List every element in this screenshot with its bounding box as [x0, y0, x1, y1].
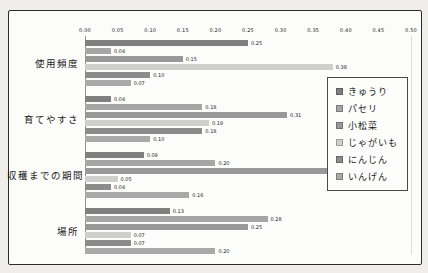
axis-tick-label: 0.00: [79, 27, 91, 33]
legend-swatch: [336, 139, 343, 146]
bar-いんげん: [85, 80, 131, 86]
bar-value-label: 0.10: [153, 72, 164, 78]
bar-value-label: 0.05: [121, 176, 132, 182]
bar-value-label: 0.20: [218, 248, 229, 254]
axis-tick-label: 0.40: [340, 27, 352, 33]
bar-value-label: 0.09: [147, 152, 158, 158]
legend-item: きゅうり: [336, 83, 398, 100]
category-group: 場所0.130.280.250.070.070.20: [85, 207, 411, 255]
bar-value-label: 0.20: [218, 160, 229, 166]
bar-きゅうり: [85, 40, 248, 46]
legend-label: にんじん: [348, 153, 388, 166]
bar-パセリ: [85, 216, 268, 222]
legend: きゅうりパセリ小松菜じゃがいもにんじんいんげん: [327, 77, 408, 191]
category-label: 場所: [7, 224, 79, 238]
bar-value-label: 0.04: [114, 48, 125, 54]
category-label: 育てやすさ: [7, 112, 79, 126]
legend-item: いんげん: [336, 168, 398, 185]
bar-row: 0.25: [85, 39, 411, 47]
bar-row: 0.13: [85, 207, 411, 215]
chart-frame: 0.000.050.100.150.200.250.300.350.400.45…: [8, 10, 422, 265]
bar-小松菜: [85, 56, 183, 62]
bar-じゃがいも: [85, 120, 209, 126]
bar-value-label: 0.15: [186, 56, 197, 62]
plot-area: 0.000.050.100.150.200.250.300.350.400.45…: [85, 11, 411, 264]
axis-tick-label: 0.10: [144, 27, 156, 33]
bar-value-label: 0.07: [134, 240, 145, 246]
bar-value-label: 0.31: [290, 112, 301, 118]
bar-value-label: 0.25: [251, 224, 262, 230]
legend-label: きゅうり: [348, 85, 388, 98]
axis-tick-label: 0.50: [405, 27, 417, 33]
legend-label: パセリ: [348, 102, 378, 115]
bar-パセリ: [85, 160, 215, 166]
bar-value-label: 0.10: [153, 136, 164, 142]
category-label: 収穫までの期間: [7, 168, 79, 182]
axis-tick-label: 0.15: [177, 27, 189, 33]
bar-パセリ: [85, 48, 111, 54]
axis-tick-label: 0.35: [307, 27, 319, 33]
legend-swatch: [336, 122, 343, 129]
bar-value-label: 0.38: [336, 64, 347, 70]
bar-小松菜: [85, 112, 287, 118]
legend-item: パセリ: [336, 100, 398, 117]
legend-item: にんじん: [336, 151, 398, 168]
legend-item: 小松菜: [336, 117, 398, 134]
legend-swatch: [336, 156, 343, 163]
bar-row: 0.07: [85, 239, 411, 247]
bar-row: 0.07: [85, 231, 411, 239]
legend-swatch: [336, 88, 343, 95]
bar-value-label: 0.07: [134, 232, 145, 238]
bar-row: 0.04: [85, 47, 411, 55]
bar-きゅうり: [85, 208, 170, 214]
bar-value-label: 0.04: [114, 96, 125, 102]
category-label: 使用頻度: [7, 56, 79, 70]
bar-row: 0.20: [85, 247, 411, 255]
legend-swatch: [336, 173, 343, 180]
bar-じゃがいも: [85, 232, 131, 238]
bar-いんげん: [85, 192, 189, 198]
bar-にんじん: [85, 240, 131, 246]
legend-label: いんげん: [348, 170, 388, 183]
bar-value-label: 0.13: [173, 208, 184, 214]
bar-row: 0.25: [85, 223, 411, 231]
bar-じゃがいも: [85, 176, 118, 182]
bar-きゅうり: [85, 152, 144, 158]
bar-にんじん: [85, 72, 150, 78]
gridline-0-50: [411, 36, 412, 254]
bar-row: 0.16: [85, 191, 411, 199]
bar-value-label: 0.25: [251, 40, 262, 46]
legend-swatch: [336, 105, 343, 112]
legend-label: じゃがいも: [348, 136, 398, 149]
bar-value-label: 0.16: [192, 192, 203, 198]
axis-tick-label: 0.05: [112, 27, 124, 33]
bar-にんじん: [85, 128, 202, 134]
bar-いんげん: [85, 248, 215, 254]
legend-item: じゃがいも: [336, 134, 398, 151]
axis-tick-label: 0.25: [242, 27, 254, 33]
bar-row: 0.28: [85, 215, 411, 223]
bar-じゃがいも: [85, 64, 333, 70]
axis-tick-label: 0.45: [372, 27, 384, 33]
bar-パセリ: [85, 104, 202, 110]
bar-value-label: 0.04: [114, 184, 125, 190]
bar-row: 0.38: [85, 63, 411, 71]
axis-tick-label: 0.20: [209, 27, 221, 33]
bar-value-label: 0.19: [212, 120, 223, 126]
legend-label: 小松菜: [348, 119, 378, 132]
bar-value-label: 0.18: [205, 104, 216, 110]
bar-row: 0.15: [85, 55, 411, 63]
axis-tick-label: 0.30: [275, 27, 287, 33]
bar-にんじん: [85, 184, 111, 190]
bar-小松菜: [85, 224, 248, 230]
bar-value-label: 0.28: [271, 216, 282, 222]
bar-いんげん: [85, 136, 150, 142]
bar-value-label: 0.07: [134, 80, 145, 86]
bar-きゅうり: [85, 96, 111, 102]
bar-value-label: 0.18: [205, 128, 216, 134]
